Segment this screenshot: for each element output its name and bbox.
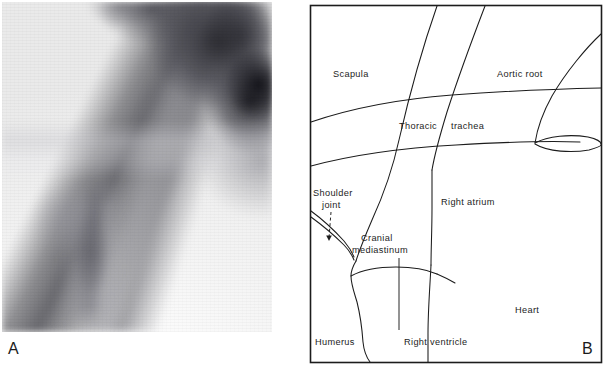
radiograph-film-grain: [2, 2, 272, 332]
label-right-atrium: Right atrium: [441, 197, 495, 207]
panel-a-radiograph: A: [0, 0, 274, 380]
panel-b-diagram: Scapula Aortic root Thoracic trachea Sho…: [290, 0, 610, 380]
label-humerus: Humerus: [315, 337, 355, 347]
label-right-ventricle: Right ventricle: [404, 337, 467, 347]
label-aortic-root: Aortic root: [497, 69, 543, 79]
label-heart: Heart: [515, 305, 539, 315]
anatomy-line-diagram: Scapula Aortic root Thoracic trachea Sho…: [290, 0, 610, 380]
label-mediastinum: mediastinum: [352, 245, 408, 255]
label-shoulder: Shoulder: [313, 188, 353, 198]
label-scapula: Scapula: [333, 69, 369, 79]
diagram-frame: [311, 6, 602, 363]
radiograph-image: [2, 2, 272, 332]
panel-b-letter: B: [582, 340, 593, 358]
panel-a-letter: A: [8, 340, 19, 358]
label-joint: joint: [321, 200, 341, 210]
label-cranial: Cranial: [361, 233, 393, 243]
label-trachea: trachea: [451, 121, 485, 131]
label-thoracic: Thoracic: [399, 121, 437, 131]
